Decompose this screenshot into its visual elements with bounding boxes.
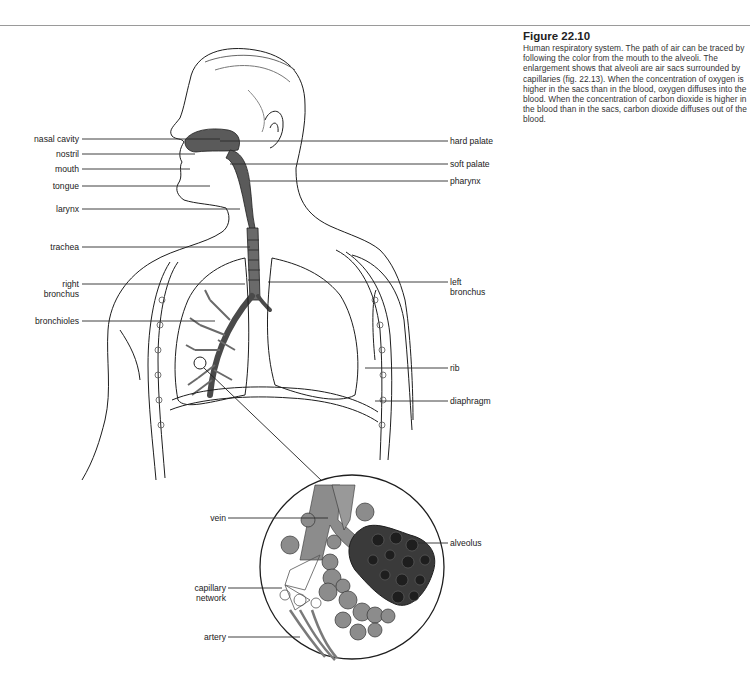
label-hard-palate: hard palate — [450, 136, 493, 146]
label-pharynx: pharynx — [450, 176, 481, 186]
label-right-bronchus: right bronchus — [44, 279, 79, 299]
label-capillary-network: capillary network — [194, 583, 226, 603]
label-right-bronchus-line1: right — [44, 279, 79, 289]
label-nasal-cavity: nasal cavity — [34, 134, 79, 144]
label-soft-palate: soft palate — [450, 159, 490, 169]
diaphragm-shape — [172, 387, 378, 412]
airway — [185, 129, 260, 300]
pharynx-shape — [226, 150, 255, 230]
label-diaphragm: diaphragm — [450, 396, 491, 406]
label-alveolus: alveolus — [450, 538, 482, 548]
label-right-bronchus-line2: bronchus — [44, 289, 79, 299]
bronchi — [210, 296, 270, 395]
label-left-bronchus-line1: left — [450, 277, 485, 287]
label-artery: artery — [204, 632, 226, 642]
trachea-shape — [247, 228, 260, 300]
left-shoulder-outline — [82, 232, 222, 480]
label-capillary-network-line1: capillary — [194, 583, 226, 593]
label-trachea: trachea — [50, 242, 79, 252]
head-outline — [190, 49, 413, 420]
label-capillary-network-line2: network — [194, 593, 226, 603]
label-nostril: nostril — [56, 149, 79, 159]
label-mouth: mouth — [55, 164, 79, 174]
label-left-bronchus-line2: bronchus — [450, 287, 485, 297]
left-lung — [267, 258, 357, 399]
label-left-bronchus: left bronchus — [450, 277, 485, 297]
nasal-cavity-shape — [185, 129, 240, 152]
label-larynx: larynx — [56, 204, 79, 214]
label-tongue: tongue — [53, 181, 79, 191]
magnify-marker — [194, 357, 206, 369]
respiratory-illustration — [0, 0, 750, 688]
alveoli-inset — [260, 475, 444, 660]
ear — [265, 111, 283, 148]
label-rib: rib — [450, 363, 460, 373]
label-vein: vein — [210, 513, 226, 523]
label-bronchioles: bronchioles — [35, 316, 79, 326]
